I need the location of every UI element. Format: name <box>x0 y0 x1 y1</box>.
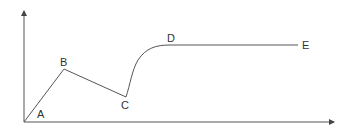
point-label-a: A <box>37 108 45 120</box>
point-label-d: D <box>167 32 175 44</box>
point-label-b: B <box>60 56 67 68</box>
diagram-canvas: A B C D E <box>0 0 351 133</box>
point-label-c: C <box>121 99 129 111</box>
point-label-e: E <box>302 39 309 51</box>
